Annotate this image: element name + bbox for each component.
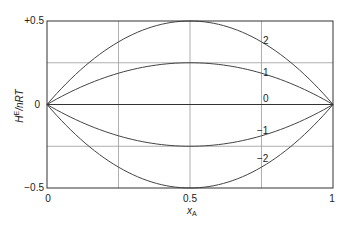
curve-label-0: 0 [263,93,269,104]
chart: +0.5 0 −0.5 0 0.5 1 xA HE/nRT 2 1 0 −1 −… [0,0,353,227]
x-tick-1: 1 [329,193,335,204]
curve-label-2: 2 [263,35,269,46]
y-tick-bottom: −0.5 [24,182,44,193]
x-tick-0: 0 [45,193,51,204]
y-axis-label: HE/nRT [13,88,25,122]
x-tick-05: 0.5 [183,193,197,204]
y-tick-zero: 0 [34,99,40,110]
curve-label-minus2: −2 [257,153,269,164]
curve-label-1: 1 [263,67,269,78]
curve-label-minus1: −1 [257,125,269,136]
x-axis-label: xA [186,205,197,217]
y-tick-top: +0.5 [24,15,44,26]
